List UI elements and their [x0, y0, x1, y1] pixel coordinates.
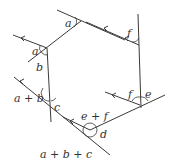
- label-b: b: [36, 61, 43, 74]
- arrow-icon: [20, 79, 24, 84]
- label-a-top: a: [65, 17, 72, 30]
- label-a-left: a: [32, 45, 39, 58]
- edge-e-ext: [105, 92, 140, 105]
- edge-f-e: [138, 14, 141, 108]
- edge-b-ext: [13, 35, 47, 48]
- label-e-plus-f: e + f: [81, 110, 110, 123]
- label-a-plus-b-plus-c: a + b + c: [40, 148, 92, 161]
- label-d: d: [100, 128, 107, 141]
- label-a-plus-b: a + b: [14, 92, 44, 105]
- label-c: c: [54, 101, 60, 114]
- label-e: e: [145, 88, 152, 101]
- polygon-diagram: a a b a + b c e + f d a + b + c f f e: [0, 0, 172, 161]
- edge-b-c: [47, 48, 51, 122]
- label-f-top: f: [126, 27, 133, 40]
- angle-arc-f: [132, 38, 139, 42]
